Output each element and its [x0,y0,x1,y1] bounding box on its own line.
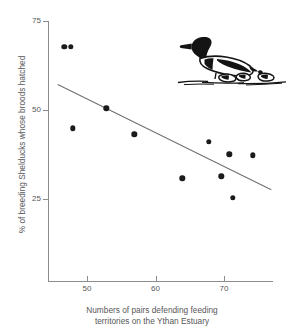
y-axis-tick-75 [43,21,49,22]
x-axis-title-line1: Numbers of pairs defending feeding [86,305,217,315]
data-point [68,44,73,49]
y-axis-tick-label-75: 75 [23,17,41,25]
x-axis-title-line2: territories on the Ythan Estuary [95,316,209,326]
data-point [62,44,67,49]
data-point [132,132,137,137]
x-axis-tick-label-50: 50 [75,285,99,293]
data-point [219,174,224,179]
data-point [227,151,232,156]
y-axis-tick-50 [43,110,49,111]
data-point [206,139,211,144]
data-point [230,195,235,200]
x-axis-title: Numbers of pairs defending feeding terri… [42,305,262,327]
x-axis-tick-70 [224,276,225,282]
data-point [180,176,185,181]
y-axis-title: % of breeding Shelducks whose broods hat… [18,45,27,245]
data-point [250,153,255,158]
x-axis-tick-label-70: 70 [212,285,236,293]
data-point [70,125,75,130]
y-axis-tick-25 [43,199,49,200]
y-axis-line [48,21,49,282]
trend-line [58,84,271,190]
x-axis-tick-label-60: 60 [144,285,168,293]
x-axis-tick-50 [87,276,88,282]
x-axis-tick-60 [156,276,157,282]
shelduck-with-ducklings-icon [176,33,288,91]
x-axis-line [48,281,273,282]
scatter-chart-figure: 75 50 25 50 60 70 % of breeding Shelduck… [0,0,303,336]
